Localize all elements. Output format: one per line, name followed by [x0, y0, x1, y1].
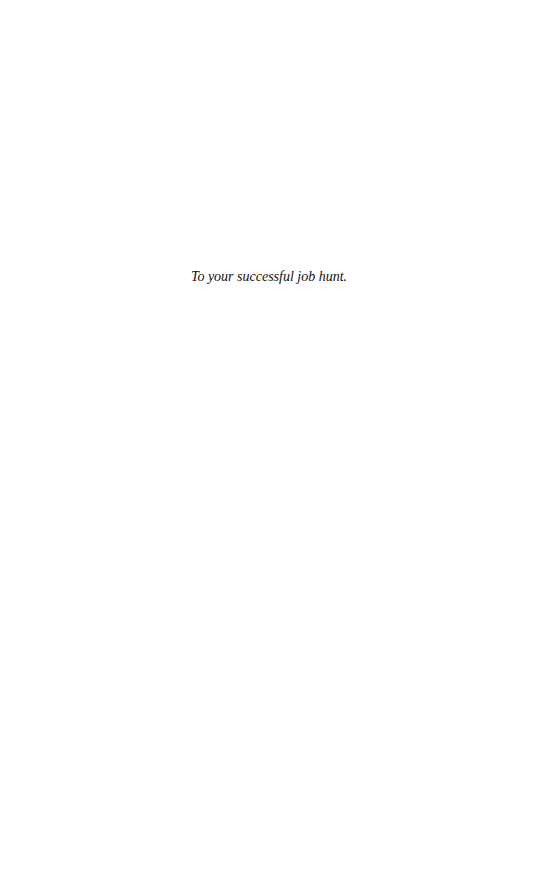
dedication-text: To your successful job hunt. — [0, 268, 538, 286]
document-page: To your successful job hunt. — [0, 0, 538, 886]
